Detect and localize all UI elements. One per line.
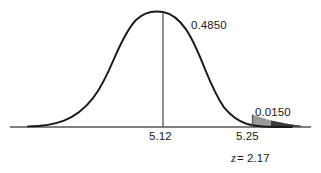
z-equation-value: = 2.17: [237, 152, 270, 164]
cutoff-tick-label: 5.25: [236, 131, 259, 143]
normal-curve: [28, 11, 292, 127]
z-score-annotation: z= 2.17: [231, 152, 270, 165]
peak-area-label: 0.4850: [191, 20, 227, 32]
mean-tick-label: 5.12: [149, 131, 172, 143]
distribution-chart-svg: [0, 0, 321, 173]
tail-area-label: 0.0150: [255, 107, 291, 119]
normal-distribution-figure: 0.4850 0.0150 5.12 5.25 z= 2.17: [0, 0, 321, 173]
